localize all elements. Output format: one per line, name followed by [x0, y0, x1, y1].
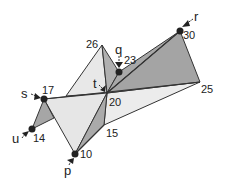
vertex-label-15: 15 [106, 127, 118, 139]
point-23 [116, 69, 123, 76]
marker-label-p: p [64, 163, 71, 178]
arrow-r-icon [182, 19, 193, 27]
vertex-label-25: 25 [201, 83, 213, 95]
vertex-label-30: 30 [183, 29, 195, 41]
marker-label-s: s [21, 86, 28, 101]
vertex-label-10: 10 [80, 148, 92, 160]
diagram-canvas: 26 23 30 25 20 17 14 15 10 r q t s u p [0, 0, 225, 187]
face-26-20-17 [66, 45, 107, 96]
arrow-q-icon [115, 56, 123, 68]
marker-label-r: r [194, 9, 199, 24]
point-17 [41, 96, 48, 103]
arrow-u-icon [22, 131, 29, 138]
point-10 [72, 151, 79, 158]
arrow-s-icon [31, 93, 41, 100]
vertex-label-23: 23 [124, 54, 136, 66]
marker-label-u: u [12, 131, 19, 146]
vertex-label-14: 14 [33, 132, 45, 144]
vertex-label-20: 20 [109, 96, 121, 108]
vertex-label-26: 26 [86, 38, 98, 50]
marker-label-t: t [93, 76, 97, 91]
marker-label-q: q [115, 42, 122, 57]
vertex-label-17: 17 [42, 84, 54, 96]
